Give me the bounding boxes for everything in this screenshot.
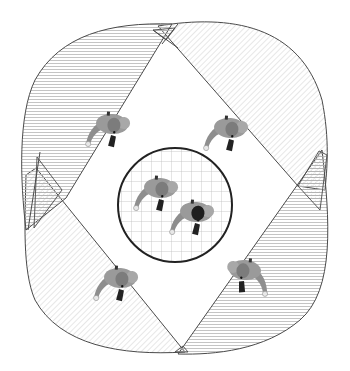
coverage-diagram	[0, 0, 350, 371]
center-zone	[115, 145, 235, 265]
diagram-canvas	[0, 0, 350, 371]
